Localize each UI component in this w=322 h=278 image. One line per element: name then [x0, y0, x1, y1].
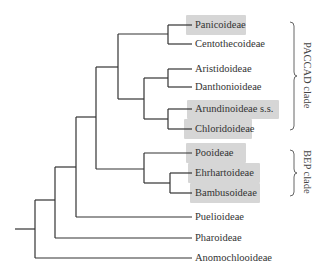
clade-label-bep: BEP clade — [302, 150, 313, 194]
bep-brace — [290, 150, 297, 196]
leaf-label-centothecoideae: Centothecoideae — [195, 38, 265, 50]
leaf-label-bambusoideae: Bambusoideae — [195, 187, 257, 199]
clade-label-paccad: PACCAD clade — [302, 42, 313, 108]
tree-branches — [15, 25, 192, 258]
paccad-brace — [290, 22, 297, 130]
leaf-label-arundinoideae: Arundinoideae s.s. — [195, 103, 273, 115]
leaf-label-chloridoideae: Chloridoideae — [195, 123, 254, 135]
leaf-label-aristidoideae: Aristidoideae — [195, 63, 252, 75]
leaf-label-anomochlooideae: Anomochlooideae — [195, 252, 272, 264]
leaf-label-danthonioideae: Danthonioideae — [195, 81, 261, 93]
phylogeny-tree — [0, 0, 322, 278]
leaf-label-puelioideae: Puelioideae — [195, 211, 244, 223]
leaf-label-pharoideae: Pharoideae — [195, 232, 242, 244]
leaf-label-ehrhartoideae: Ehrhartoideae — [195, 167, 254, 179]
leaf-label-panicoideae: Panicoideae — [195, 19, 246, 31]
leaf-label-pooideae: Pooideae — [195, 147, 234, 159]
